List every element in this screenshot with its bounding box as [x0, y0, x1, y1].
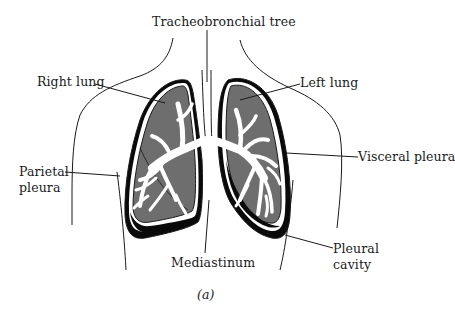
- leader-visceral-pleura: [286, 153, 358, 157]
- label-visceral-pleura: Visceral pleura: [358, 149, 455, 164]
- leader-parietal-pleura: [65, 172, 120, 176]
- leader-pleural-cavity: [285, 235, 333, 248]
- leader-right-lung: [95, 84, 165, 103]
- label-parietal-pleura-line1: Parietal: [19, 164, 69, 179]
- leader-mediastinum: [205, 200, 209, 253]
- lung-anatomy-figure: Tracheobronchial tree Right lung Left lu…: [0, 0, 455, 310]
- label-tracheobronchial-tree: Tracheobronchial tree: [152, 14, 296, 29]
- label-pleural-cavity-line2: cavity: [333, 257, 371, 272]
- label-pleural-cavity-line1: Pleural: [333, 241, 379, 256]
- label-parietal-pleura-line2: pleura: [19, 180, 60, 195]
- label-mediastinum: Mediastinum: [171, 255, 255, 270]
- figure-caption: (a): [197, 287, 215, 302]
- label-left-lung: Left lung: [300, 75, 358, 90]
- label-right-lung: Right lung: [37, 74, 105, 89]
